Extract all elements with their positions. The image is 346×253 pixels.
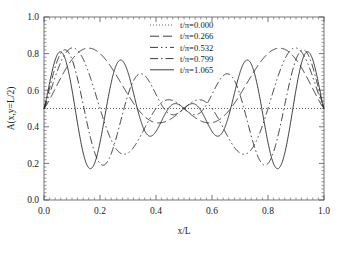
x-tick-label: 0.6 bbox=[206, 206, 218, 216]
legend-label-2: t/π=0.532 bbox=[180, 43, 213, 53]
x-tick-label: 1.0 bbox=[318, 206, 330, 216]
line-chart: 0.00.20.40.60.81.00.00.20.40.60.81.0x/LA… bbox=[0, 0, 346, 253]
x-tick-label: 0.8 bbox=[262, 206, 274, 216]
y-tick-label: 0.6 bbox=[27, 86, 39, 96]
x-tick-label: 0.4 bbox=[150, 206, 162, 216]
series-line-2 bbox=[44, 48, 324, 154]
legend-label-0: t/π=0.000 bbox=[180, 20, 213, 30]
y-tick-label: 0.4 bbox=[27, 122, 39, 132]
legend-label-4: t/π=1.065 bbox=[180, 65, 213, 75]
y-tick-label: 0.8 bbox=[27, 49, 39, 59]
legend-label-3: t/π=0.799 bbox=[180, 54, 213, 64]
x-tick-label: 0.0 bbox=[38, 206, 50, 216]
x-axis-label: x/L bbox=[177, 226, 190, 236]
x-tick-label: 0.2 bbox=[94, 206, 106, 216]
legend-label-1: t/π=0.266 bbox=[180, 31, 214, 41]
y-tick-label: 0.2 bbox=[27, 159, 39, 169]
y-axis-label: A(x,y=L/2) bbox=[6, 87, 17, 131]
y-tick-label: 1.0 bbox=[27, 12, 39, 22]
y-tick-label: 0.0 bbox=[27, 195, 39, 205]
figure-container: 0.00.20.40.60.81.00.00.20.40.60.81.0x/LA… bbox=[0, 0, 346, 253]
